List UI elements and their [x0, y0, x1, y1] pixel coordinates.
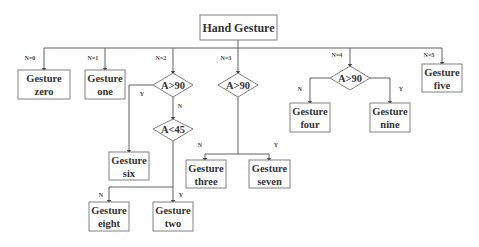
svg-text:two: two — [165, 218, 181, 229]
branch-label-n2: N=2 — [156, 55, 167, 61]
svg-text:A<45: A<45 — [161, 124, 185, 135]
edge-n3-yes — [238, 154, 269, 160]
branch-label-n3: N=3 — [221, 55, 232, 61]
svg-text:N: N — [178, 103, 183, 109]
svg-text:seven: seven — [257, 176, 282, 187]
svg-text:Gesture: Gesture — [372, 106, 408, 117]
leaf-gesture-six: Gesture six — [109, 152, 149, 180]
leaf-gesture-eight: Gesture eight — [89, 202, 129, 231]
edge-n3-no — [205, 154, 238, 160]
svg-text:five: five — [434, 80, 451, 91]
edge-n4-yes — [370, 78, 390, 103]
branch-label-n0: N=0 — [25, 55, 36, 61]
svg-text:N: N — [198, 142, 203, 148]
svg-text:Gesture: Gesture — [87, 73, 123, 84]
svg-text:four: four — [300, 119, 320, 130]
svg-text:eight: eight — [98, 218, 121, 229]
svg-text:Gesture: Gesture — [111, 155, 147, 166]
root-node: Hand Gesture — [200, 15, 277, 40]
leaf-gesture-nine: Gesture nine — [370, 103, 410, 132]
svg-text:N: N — [99, 192, 104, 198]
svg-text:three: three — [194, 176, 217, 187]
root-label: Hand Gesture — [202, 21, 275, 35]
svg-text:Y: Y — [140, 91, 145, 97]
svg-text:Gesture: Gesture — [424, 67, 460, 78]
leaf-gesture-zero: Gesture zero — [18, 70, 70, 99]
svg-text:Gesture: Gesture — [155, 205, 191, 216]
svg-text:Y: Y — [179, 192, 184, 198]
edge-n4-no — [310, 78, 330, 103]
svg-text:Gesture: Gesture — [188, 163, 224, 174]
svg-text:Gesture: Gesture — [292, 106, 328, 117]
svg-text:one: one — [97, 86, 113, 97]
svg-text:Gesture: Gesture — [252, 163, 288, 174]
svg-text:Y: Y — [399, 86, 404, 92]
leaf-gesture-seven: Gesture seven — [249, 160, 290, 188]
svg-text:A>90: A>90 — [226, 80, 250, 91]
leaf-gesture-two: Gesture two — [153, 202, 193, 231]
svg-text:A>90: A>90 — [338, 73, 362, 84]
svg-text:nine: nine — [380, 119, 400, 130]
decision-n4-a-gt-90: A>90 — [330, 66, 370, 90]
svg-text:Y: Y — [274, 142, 279, 148]
leaf-gesture-one: Gesture one — [85, 70, 125, 99]
svg-text:N: N — [298, 86, 303, 92]
svg-text:Gesture: Gesture — [91, 205, 127, 216]
branch-label-n5: N=5 — [424, 52, 435, 58]
edge-n2b-no — [109, 187, 173, 202]
svg-text:A>90: A>90 — [161, 80, 185, 91]
leaf-gesture-five: Gesture five — [422, 64, 462, 92]
leaf-gesture-four: Gesture four — [290, 103, 330, 132]
svg-text:zero: zero — [34, 86, 53, 97]
decision-n2-a-lt-45: A<45 — [153, 119, 193, 141]
branch-label-n4: N=4 — [332, 52, 343, 58]
leaf-gesture-three: Gesture three — [186, 160, 226, 188]
hand-gesture-decision-tree: Hand Gesture N=0 N=1 N=2 N=3 N=4 N=5 Ges… — [0, 0, 479, 247]
svg-text:Gesture: Gesture — [26, 73, 62, 84]
branch-label-n1: N=1 — [88, 55, 99, 61]
svg-text:six: six — [123, 168, 136, 179]
decision-n2-a-gt-90: A>90 — [153, 73, 193, 97]
decision-n3-a-gt-90: A>90 — [218, 73, 258, 97]
